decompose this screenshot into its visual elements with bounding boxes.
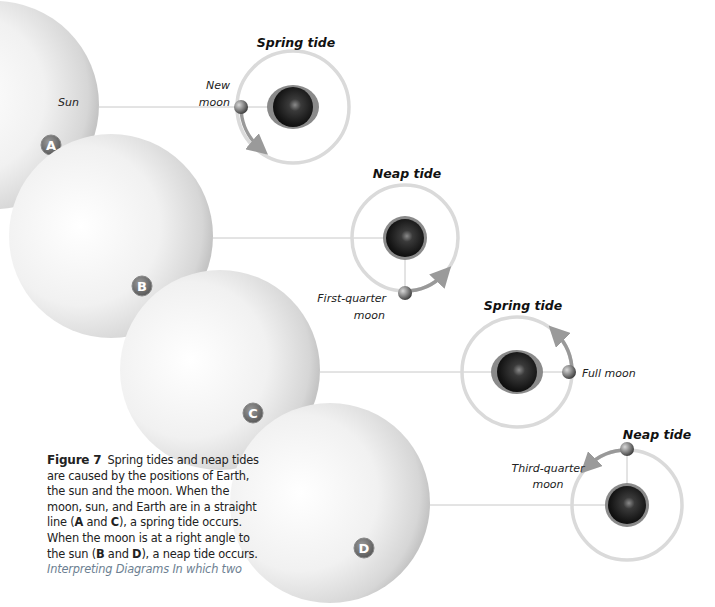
moon-label-line2: moon <box>532 478 563 491</box>
orbit-direction-arrow <box>405 274 444 291</box>
tide-label: Spring tide <box>257 35 335 50</box>
caption-panel-ref: A <box>74 515 83 529</box>
full-moon <box>562 365 576 379</box>
tide-label: Neap tide <box>373 166 441 181</box>
panel-badge-letter: A <box>46 138 56 153</box>
caption-segment: ), a neap tide occurs. <box>141 547 257 561</box>
tide-label: Spring tide <box>484 298 562 313</box>
caption-segment: and <box>104 547 132 561</box>
moon-label-line1: New <box>206 79 230 92</box>
moon-label-line1: Third-quarter <box>511 462 586 475</box>
caption-panel-ref: D <box>132 547 141 561</box>
panel-badge-letter: C <box>248 406 258 421</box>
panel-badge-letter: D <box>359 541 370 556</box>
earth <box>273 87 313 127</box>
figure-number: Figure 7 <box>47 453 101 467</box>
interpreting-diagrams-label: Interpreting Diagrams <box>47 562 169 576</box>
earth <box>497 352 537 392</box>
new-moon <box>234 100 248 114</box>
first-quarter-moon <box>398 286 412 300</box>
earth <box>608 486 646 524</box>
panel-d: Neap tide Third-quarter moon D <box>230 403 691 603</box>
tide-label: Neap tide <box>623 427 691 442</box>
moon-label-line2: moon <box>354 309 385 322</box>
figure-caption: Figure 7Spring tides and neap tides are … <box>47 453 262 578</box>
earth <box>386 219 424 257</box>
caption-segment: and <box>83 515 111 529</box>
interpreting-diagrams-question: In which two <box>169 562 242 576</box>
moon-label-line2: moon <box>199 96 230 109</box>
moon-label-line1: First-quarter <box>317 292 387 305</box>
caption-panel-ref: C <box>111 515 119 529</box>
sun-label: Sun <box>58 96 79 109</box>
third-quarter-moon <box>620 442 634 456</box>
caption-text: Spring tides and neap tides are caused b… <box>47 453 259 561</box>
panel-badge-letter: B <box>137 279 147 294</box>
moon-label-line1: Full moon <box>582 367 636 380</box>
